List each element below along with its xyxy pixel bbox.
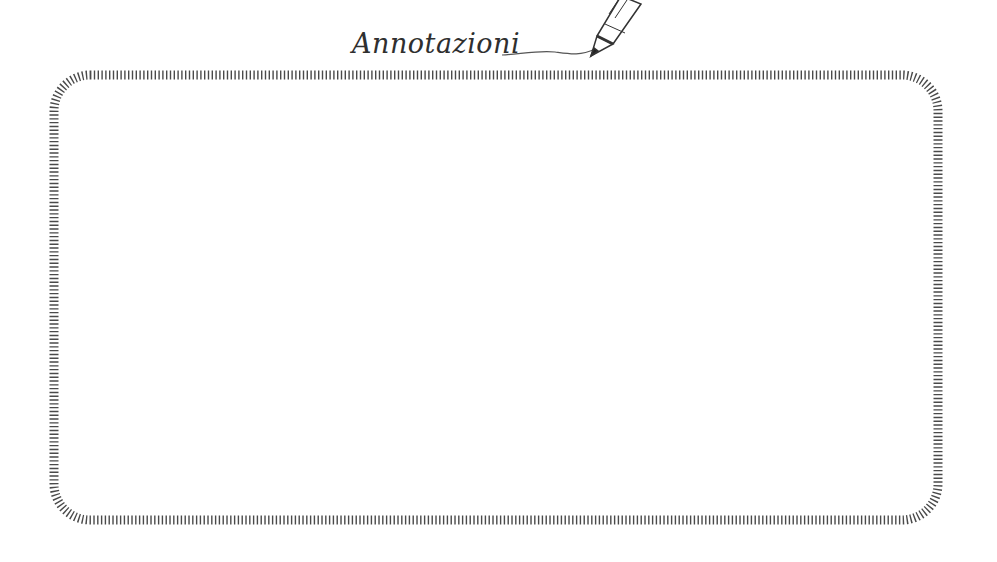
notes-area[interactable] bbox=[70, 90, 920, 505]
